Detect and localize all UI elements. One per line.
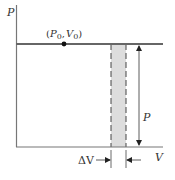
pv-diagram: P V P (P0,V0) ΔV [0,0,175,180]
height-label: P [142,111,151,124]
x-axis-label: V [155,151,164,164]
state-point-dot [62,42,67,47]
y-axis-label: P [6,6,15,19]
delta-v-label: ΔV [78,154,95,167]
delta-v-strip [111,44,126,147]
state-point-label: (P0,V0) [46,28,82,41]
